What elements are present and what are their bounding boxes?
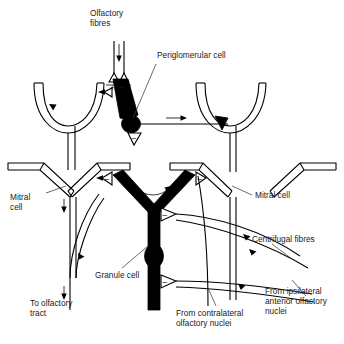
centrifugal-arrow-2 <box>249 249 257 256</box>
label-periglomerular-cell: Periglomerular cell <box>157 50 226 60</box>
svg-text:–: – <box>163 210 168 220</box>
mitral-cell-left-line1: Mitral <box>10 192 30 202</box>
flow-arrow-into-left-tuft <box>98 89 105 94</box>
label-to-olfactory-tract: To olfactory tract <box>30 298 72 318</box>
synapse-granule-upper-right: – <box>196 172 206 185</box>
periglomerular-cell-line1: Periglomerular cell <box>157 50 226 60</box>
synapse-granule-upper-left: – <box>102 172 112 185</box>
from-ipsilateral-line2: anterior olfactory <box>265 296 327 306</box>
leader-mitral-left <box>46 186 66 193</box>
glomerulus-right <box>196 83 266 172</box>
olf-terminal-onto-left-mitral <box>104 88 112 97</box>
label-olfactory-fibres: Olfactory fibres <box>90 8 123 28</box>
label-from-contralateral: From contralateral olfactory nuclei <box>176 308 243 328</box>
mitral-axon-left <box>61 197 76 310</box>
synapse-marker-plus-right: + <box>120 83 125 93</box>
mitral-cell-left-line2: cell <box>10 202 30 212</box>
synapse-granule-low: – <box>161 275 176 288</box>
from-contralateral-line2: olfactory nuclei <box>176 318 243 328</box>
to-olfactory-tract-line2: tract <box>30 308 72 318</box>
leader-centrifugal <box>272 244 292 259</box>
label-mitral-cell-left: Mitral cell <box>10 192 30 212</box>
from-ipsilateral-line3: nuclei <box>265 306 327 316</box>
to-olfactory-tract-line1: To olfactory <box>30 298 72 308</box>
leader-mitral-right <box>232 186 252 195</box>
label-granule-cell: Granule cell <box>95 270 139 280</box>
svg-text:–: – <box>163 277 168 287</box>
granule-cell-line1: Granule cell <box>95 270 139 280</box>
flow-arrow-glomerulus-left <box>49 104 57 111</box>
leader-periglomerular <box>133 64 156 118</box>
leader-contralateral <box>208 288 216 306</box>
from-ipsilateral-line1: From ipsilateral <box>265 286 327 296</box>
flow-arrow-recurrent <box>78 253 85 260</box>
olfactory-fibres-line1: Olfactory <box>90 8 123 18</box>
olfactory-nerve-fibres <box>114 41 124 74</box>
contralateral-fibre <box>198 176 208 306</box>
granule-cell <box>113 170 195 310</box>
leader-granule <box>122 246 148 268</box>
glomerulus-left <box>34 83 104 170</box>
flow-arrow-pg-axon <box>181 115 188 120</box>
svg-text:–: – <box>105 174 110 184</box>
label-centrifugal-fibres: Centrifugal fibres <box>252 234 315 244</box>
synapse-granule-mid: – <box>161 208 176 221</box>
label-from-ipsilateral: From ipsilateral anterior olfactory nucl… <box>265 286 327 316</box>
flow-arrow-down-fibres <box>116 56 122 63</box>
from-contralateral-line1: From contralateral <box>176 308 243 318</box>
olfactory-fibres-line2: fibres <box>90 18 123 28</box>
synapse-marker-pg-minus: – <box>132 133 137 143</box>
label-mitral-cell-right: Mitral cell <box>255 190 290 200</box>
olfactory-bulb-diagram: – + + <box>0 0 344 344</box>
centrifugal-fibres-line1: Centrifugal fibres <box>252 234 315 244</box>
recurrent-collateral <box>70 194 104 278</box>
mitral-cell-right-line1: Mitral cell <box>255 190 290 200</box>
periglomerular-soma <box>122 115 141 133</box>
pg-terminal-right <box>215 116 228 130</box>
granule-soma <box>145 244 164 268</box>
